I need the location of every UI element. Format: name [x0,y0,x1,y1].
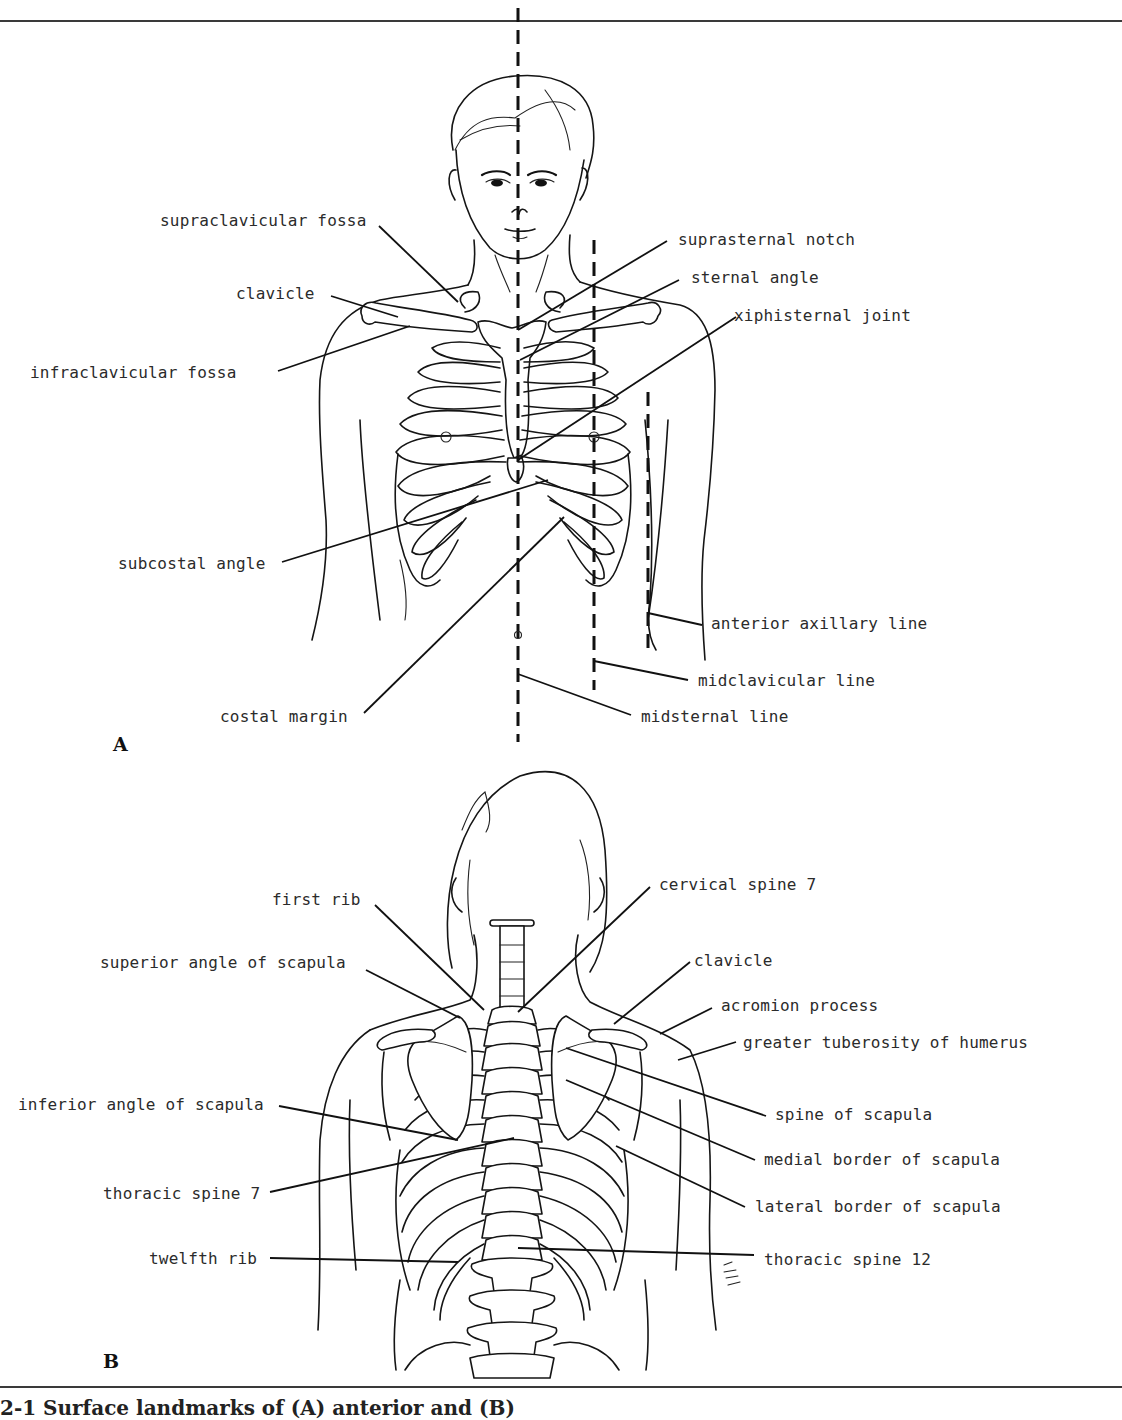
panel-letter-b: B [103,1350,119,1372]
label-inferior-angle-of-scapula: inferior angle of scapula [18,1096,264,1114]
label-infraclavicular-fossa: infraclavicular fossa [30,364,237,382]
label-suprasternal-notch: suprasternal notch [678,231,855,249]
panel-letter-a: A [113,733,128,755]
label-cervical-spine-7: cervical spine 7 [659,876,816,894]
label-acromion-process: acromion process [721,997,878,1015]
label-twelfth-rib: twelfth rib [149,1250,257,1268]
label-clavicle-anterior: clavicle [236,285,315,303]
label-thoracic-spine-7: thoracic spine 7 [103,1185,260,1203]
label-sternal-angle: sternal angle [691,269,819,287]
panel-a-leaders [278,226,736,715]
vertebral-column [467,1006,556,1378]
figure-caption: 2-1 Surface landmarks of (A) anterior an… [0,1396,515,1420]
label-spine-of-scapula: spine of scapula [775,1106,932,1124]
label-xiphisternal-joint: xiphisternal joint [734,307,911,325]
label-thoracic-spine-12: thoracic spine 12 [764,1251,931,1269]
label-midsternal-line: midsternal line [641,708,789,726]
anterior-figure [312,8,715,742]
label-medial-border-of-scapula: medial border of scapula [764,1151,1000,1169]
label-subcostal-angle: subcostal angle [118,555,266,573]
label-first-rib: first rib [272,891,361,909]
label-superior-angle-of-scapula: superior angle of scapula [100,954,346,972]
label-greater-tuberosity-of-humerus: greater tuberosity of humerus [743,1034,1028,1052]
label-anterior-axillary-line: anterior axillary line [711,615,927,633]
label-midclavicular-line: midclavicular line [698,672,875,690]
label-clavicle-posterior: clavicle [694,952,773,970]
label-costal-margin: costal margin [220,708,348,726]
label-lateral-border-of-scapula: lateral border of scapula [755,1198,1001,1216]
posterior-figure [318,772,740,1378]
label-supraclavicular-fossa: supraclavicular fossa [160,212,367,230]
artist-signature-mark [724,1262,740,1285]
